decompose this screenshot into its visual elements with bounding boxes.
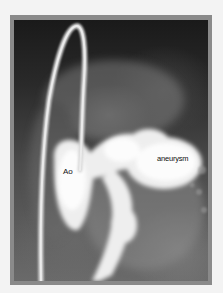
angiogram-image: Ao aneurysm [14,20,208,281]
angiogram-structures [14,20,208,281]
aneurysm-label: aneurysm [157,155,188,163]
ao-label: Ao [63,168,72,176]
image-frame: Ao aneurysm [10,15,212,285]
